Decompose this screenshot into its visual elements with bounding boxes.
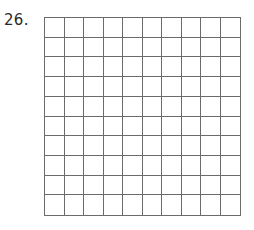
grid-cell [143,97,163,117]
grid-cell [123,57,143,77]
grid-cell [182,57,202,77]
grid-cell [65,77,85,97]
grid-cell [123,97,143,117]
grid-cell [104,176,124,196]
grid-cell [201,176,221,196]
grid-cell [84,77,104,97]
grid-cell [45,57,65,77]
grid-cell [201,38,221,58]
grid-cell [162,38,182,58]
grid-cell [65,176,85,196]
grid-cell [45,156,65,176]
grid-cell [182,77,202,97]
grid-cell [123,176,143,196]
grid-cell [45,195,65,215]
grid-cell [45,18,65,38]
grid-cell [201,97,221,117]
grid-cell [162,176,182,196]
grid-cell [162,57,182,77]
grid-cell [104,117,124,137]
grid-cell [143,117,163,137]
grid-cell [123,38,143,58]
grid-cell [201,117,221,137]
grid-cell [221,156,241,176]
grid-cell [104,195,124,215]
grid-cell [84,18,104,38]
grid-cell [65,156,85,176]
grid-cell [182,117,202,137]
grid-cell [65,117,85,137]
grid-cell [45,77,65,97]
grid-cell [221,117,241,137]
grid-cell [84,97,104,117]
grid-cell [201,195,221,215]
grid-cell [104,156,124,176]
grid-cell [162,136,182,156]
grid-cell [104,136,124,156]
grid-cell [123,77,143,97]
grid-cell [84,38,104,58]
grid-cell [84,176,104,196]
grid-cell [104,18,124,38]
grid-cell [143,57,163,77]
grid-cell [201,156,221,176]
grid-cell [65,195,85,215]
grid-cell [182,18,202,38]
grid-cell [45,97,65,117]
grid-cell [104,38,124,58]
grid-cell [221,97,241,117]
grid-cell [182,136,202,156]
grid-cell [201,77,221,97]
grid-cell [65,38,85,58]
hundred-grid [44,17,241,216]
grid-cell [143,156,163,176]
grid-cell [162,117,182,137]
grid-cell [182,195,202,215]
grid-cell [201,57,221,77]
grid-cell [162,18,182,38]
grid-cell [104,77,124,97]
grid-cell [65,18,85,38]
grid-cell [143,77,163,97]
grid-cell [162,77,182,97]
grid-cell [143,136,163,156]
grid-cell [123,156,143,176]
grid-cell [84,195,104,215]
grid-cell [221,18,241,38]
grid-cell [182,176,202,196]
grid-cell [221,176,241,196]
grid-cell [162,156,182,176]
grid-cell [182,97,202,117]
grid-cell [45,136,65,156]
grid-cell [65,97,85,117]
grid-cell [65,57,85,77]
grid-cell [84,136,104,156]
grid-cell [45,176,65,196]
grid-cell [162,97,182,117]
grid-cell [221,77,241,97]
grid-cell [221,195,241,215]
grid-cell [65,136,85,156]
grid-cell [123,136,143,156]
grid-cell [84,156,104,176]
grid-cell [143,18,163,38]
grid-cell [221,38,241,58]
grid-cell [201,18,221,38]
grid-cell [201,136,221,156]
grid-cell [123,195,143,215]
grid-cell [162,195,182,215]
grid-cell [104,97,124,117]
grid-cell [143,176,163,196]
grid-cell [45,117,65,137]
problem-number: 26. [4,11,29,29]
grid-cell [45,38,65,58]
grid-cell [84,57,104,77]
grid-cell [84,117,104,137]
grid-cell [143,38,163,58]
grid-cell [123,18,143,38]
grid-cell [104,57,124,77]
grid-cell [221,136,241,156]
grid-cell [123,117,143,137]
grid-cell [143,195,163,215]
grid-cell [221,57,241,77]
